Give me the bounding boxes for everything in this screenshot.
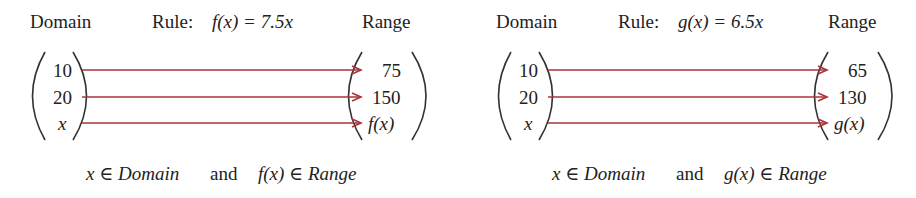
domain-value: 20 <box>519 88 538 107</box>
footer-and: and <box>210 164 237 183</box>
domain-value: x <box>58 114 66 133</box>
footer-and: and <box>676 164 703 183</box>
footer-domain-membership: x ∈ Domain <box>552 164 645 183</box>
mapping-panel-g: Domain Rule: g(x) = 6.5x Range 10 20 x 6… <box>466 0 916 198</box>
domain-value: 10 <box>53 61 72 80</box>
domain-value: x <box>524 114 532 133</box>
footer-range-membership: g(x) ∈ Range <box>724 164 827 183</box>
range-value: 75 <box>382 61 401 80</box>
range-value: g(x) <box>834 114 865 133</box>
range-value: 130 <box>838 88 867 107</box>
mapping-panel-f: Domain Rule: f(x) = 7.5x Range 10 20 x 7… <box>0 0 458 198</box>
range-value: 65 <box>848 61 867 80</box>
domain-value: 10 <box>519 61 538 80</box>
footer-domain-membership: x ∈ Domain <box>86 164 179 183</box>
domain-value: 20 <box>53 88 72 107</box>
footer-range-membership: f(x) ∈ Range <box>258 164 356 183</box>
range-value: f(x) <box>368 114 394 133</box>
range-value: 150 <box>372 88 401 107</box>
